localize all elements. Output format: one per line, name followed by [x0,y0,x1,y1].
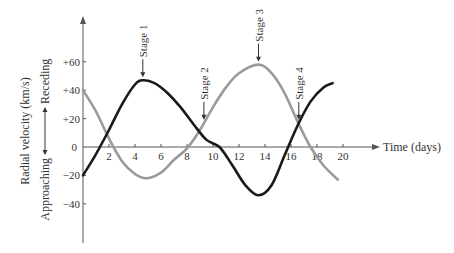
y-axis-title: Radial velocity (km/s) [18,77,32,184]
stage-label: Stage 4 [293,67,305,100]
x-tick-label: 4 [132,150,138,162]
radial-velocity-chart: 2468101214161820 +60+40+200−20−40 Time (… [0,0,454,253]
x-tick-label: 10 [208,150,220,162]
x-tick-label: 12 [234,150,245,162]
stage-annotations: Stage 1Stage 2Stage 3Stage 4 [137,8,305,119]
y-tick-label: −40 [63,198,81,210]
stage-label: Stage 2 [198,67,210,100]
stage-label-group: Stage 1 [137,25,149,58]
y-tick-label: 0 [72,141,78,153]
x-axis-arrow-icon [372,144,380,150]
stage-label: Stage 1 [137,25,149,58]
direction-arrow-right-icon [43,107,48,112]
receding-label: Receding [38,59,52,104]
x-axis-title: Time (days) [383,140,441,154]
stage-arrow-head-icon [140,72,145,77]
stage-label: Stage 3 [253,8,265,41]
direction-arrow-left-icon [43,150,48,155]
y-axis-arrow-icon [80,16,86,24]
y-tick-label: +20 [63,113,81,125]
y-axis-title-group: Radial velocity (km/s) [18,77,32,184]
x-tick-label: 14 [260,150,272,162]
x-tick-label: 2 [106,150,112,162]
stage-label-group: Stage 3 [253,8,265,41]
y-tick-label: −20 [63,169,81,181]
x-tick-label: 20 [338,150,350,162]
stage-label-group: Stage 2 [198,67,210,100]
approaching-label: Approaching [38,158,52,221]
x-tick-label: 6 [158,150,164,162]
stage-arrow-head-icon [256,57,261,62]
direction-labels: Approaching Receding [38,59,52,221]
y-tick-label: +60 [63,56,81,68]
stage-label-group: Stage 4 [293,67,305,100]
y-tick-label: +40 [63,84,81,96]
